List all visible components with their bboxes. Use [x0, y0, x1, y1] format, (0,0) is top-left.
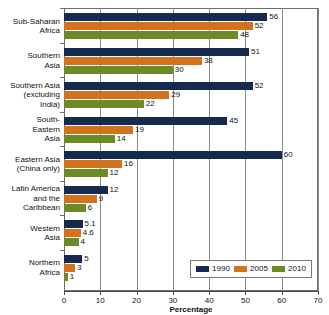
x-tick	[282, 291, 283, 295]
bar-value-label: 22	[146, 100, 155, 108]
category-label-line: and the	[0, 194, 60, 204]
y-tick	[60, 215, 64, 216]
x-tick	[245, 291, 246, 295]
x-axis-line	[64, 291, 318, 292]
category-label-line: Africa	[0, 268, 60, 278]
bar	[64, 126, 133, 134]
category-label-line: India)	[0, 100, 60, 110]
legend-label-2005: 2005	[250, 265, 268, 273]
bar-value-label: 6	[88, 204, 92, 212]
category-label: Southern Asia(excludingIndia)	[0, 81, 60, 110]
legend-item-2005: 2005	[234, 265, 268, 273]
category-label-line: Eastern	[0, 125, 60, 135]
bar	[64, 100, 144, 108]
bar-value-label: 60	[284, 151, 293, 159]
bar-value-label: 51	[251, 48, 260, 56]
category-label: Sub-SaharanAfrica	[0, 17, 60, 36]
bar-value-label: 48	[240, 31, 249, 39]
bar-group: 522922	[64, 81, 318, 111]
x-tick-label: 10	[88, 296, 112, 305]
bar-value-label: 4.6	[83, 229, 94, 237]
bar	[64, 204, 86, 212]
category-label-line: Southern	[0, 51, 60, 61]
legend-swatch-2010	[272, 266, 285, 272]
y-tick	[60, 181, 64, 182]
bar	[64, 160, 122, 168]
bar-value-label: 12	[110, 186, 119, 194]
bar-value-label: 16	[124, 160, 133, 168]
category-label-line: Sub-Saharan	[0, 17, 60, 27]
legend-item-2010: 2010	[272, 265, 306, 273]
bar	[64, 255, 82, 263]
bar	[64, 135, 115, 143]
category-label-line: (China only)	[0, 164, 60, 174]
bar	[64, 22, 253, 30]
category-label: WesternAsia	[0, 224, 60, 243]
x-tick	[64, 291, 65, 295]
bar	[64, 151, 282, 159]
category-label: SouthernAsia	[0, 51, 60, 70]
category-label-line: (excluding	[0, 90, 60, 100]
legend-label-2010: 2010	[288, 265, 306, 273]
category-label-line: Caribbean	[0, 203, 60, 213]
bar	[64, 57, 202, 65]
category-label-line: Southern Asia	[0, 81, 60, 91]
bar	[64, 91, 169, 99]
category-label-line: South-	[0, 115, 60, 125]
bar-value-label: 45	[229, 117, 238, 125]
y-tick	[60, 43, 64, 44]
bar	[64, 66, 173, 74]
y-tick	[60, 77, 64, 78]
category-label-line: Asia	[0, 134, 60, 144]
category-label-line: Asia	[0, 61, 60, 71]
bar-value-label: 29	[171, 91, 180, 99]
bar-value-label: 14	[117, 135, 126, 143]
bar	[64, 31, 238, 39]
bar-value-label: 3	[77, 264, 81, 272]
x-tick-label: 30	[161, 296, 185, 305]
x-tick-label: 40	[197, 296, 221, 305]
category-label-line: Northern	[0, 258, 60, 268]
gridline	[318, 8, 319, 291]
bar	[64, 238, 79, 246]
category-label: NorthernAfrica	[0, 258, 60, 277]
bar	[64, 117, 227, 125]
bar	[64, 169, 108, 177]
bar	[64, 48, 249, 56]
bar	[64, 195, 97, 203]
bar-value-label: 5	[84, 255, 88, 263]
bar-value-label: 30	[175, 66, 184, 74]
legend-swatch-1990	[196, 266, 209, 272]
category-label-line: Asia	[0, 233, 60, 243]
bar	[64, 273, 68, 281]
bar-group: 565248	[64, 12, 318, 42]
bar-group: 1296	[64, 185, 318, 215]
bar-value-label: 38	[204, 57, 213, 65]
bar	[64, 13, 267, 21]
category-label: Latin Americaand theCaribbean	[0, 184, 60, 213]
x-axis-title: Percentage	[64, 305, 318, 314]
category-label: South-EasternAsia	[0, 115, 60, 144]
bar	[64, 220, 83, 228]
legend-item-1990: 1990	[196, 265, 230, 273]
y-tick	[60, 8, 64, 9]
x-tick-label: 70	[306, 296, 329, 305]
y-tick	[60, 112, 64, 113]
bar	[64, 264, 75, 272]
bar	[64, 82, 253, 90]
x-tick-label: 20	[125, 296, 149, 305]
category-label-line: Western	[0, 224, 60, 234]
bar-value-label: 1	[70, 273, 74, 281]
y-tick	[60, 250, 64, 251]
bar-value-label: 56	[269, 13, 278, 21]
x-tick	[318, 291, 319, 295]
x-tick	[209, 291, 210, 295]
bar-group: 5.14.64	[64, 219, 318, 249]
bar-value-label: 52	[255, 22, 264, 30]
x-tick	[173, 291, 174, 295]
x-tick	[100, 291, 101, 295]
bar-value-label: 5.1	[85, 220, 96, 228]
bar-value-label: 12	[110, 169, 119, 177]
legend-label-1990: 1990	[212, 265, 230, 273]
bar	[64, 186, 108, 194]
